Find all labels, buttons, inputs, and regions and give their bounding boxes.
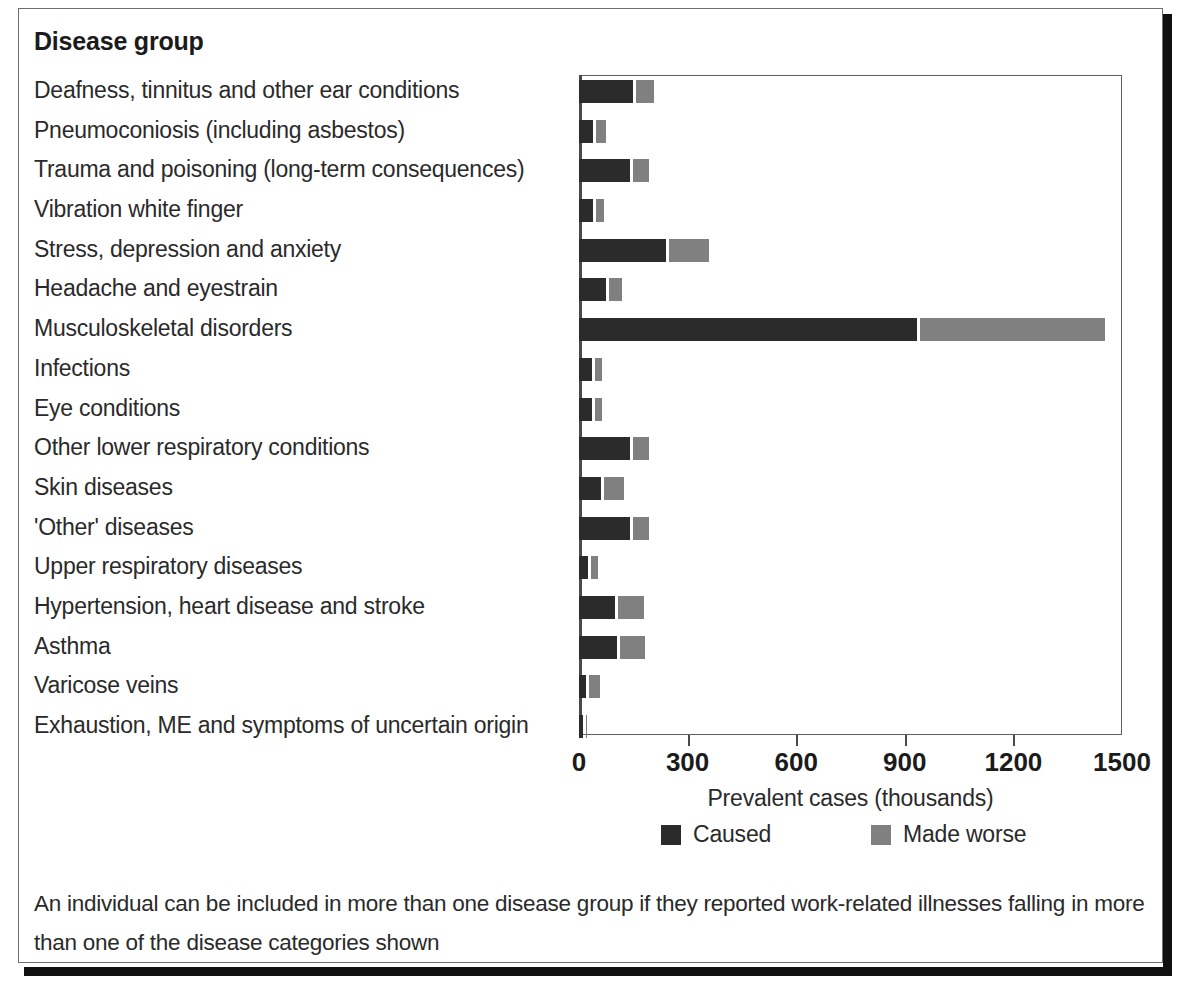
bar-stack (579, 517, 649, 540)
bar-segment-made-worse (589, 675, 600, 698)
bar-segment-made-worse (595, 398, 602, 421)
legend-label-made-worse: Made worse (903, 821, 1026, 848)
bar-segment-made-worse (636, 80, 654, 103)
bar-stack (579, 278, 622, 301)
x-axis-tick-label: 0 (572, 747, 586, 778)
x-axis-tick-labels: 030060090012001500 (579, 747, 1122, 781)
category-label: 'Other' diseases (34, 508, 579, 548)
x-axis-ticks (579, 735, 1122, 747)
bar-segment-caused (579, 80, 633, 103)
bar-row (579, 389, 1122, 429)
bar-segment-made-worse (596, 199, 603, 222)
bar-segment-made-worse (618, 596, 643, 619)
bar-row (579, 666, 1122, 706)
bar-row (579, 309, 1122, 349)
figure-container: Disease group Deafness, tinnitus and oth… (18, 8, 1163, 963)
bar-segment-made-worse (604, 477, 624, 500)
bar-stack (579, 159, 649, 182)
bar-row (579, 269, 1122, 309)
bar-stack (579, 239, 709, 262)
bar-segment-caused (579, 120, 593, 143)
legend-label-caused: Caused (693, 821, 771, 848)
x-axis-tick (796, 735, 798, 746)
bar-row (579, 349, 1122, 389)
legend-item-made-worse: Made worse (871, 821, 1026, 848)
bar-segment-caused (579, 199, 593, 222)
category-label: Musculoskeletal disorders (34, 309, 579, 349)
category-label: Hypertension, heart disease and stroke (34, 587, 579, 627)
bar-stack (579, 437, 649, 460)
x-axis-tick-label: 600 (774, 747, 817, 778)
bar-row (579, 468, 1122, 508)
category-label: Varicose veins (34, 666, 579, 706)
bar-stack (579, 80, 654, 103)
bar-stack (579, 556, 598, 579)
bars-layer (579, 71, 1122, 735)
category-label: Asthma (34, 627, 579, 667)
bar-row (579, 547, 1122, 587)
bar-stack (579, 675, 600, 698)
bar-segment-made-worse (920, 318, 1105, 341)
bar-segment-made-worse (596, 120, 605, 143)
bar-row (579, 230, 1122, 270)
bar-segment-made-worse (595, 358, 602, 381)
bar-stack (579, 596, 644, 619)
bar-stack (579, 120, 606, 143)
x-axis-tick-label: 300 (666, 747, 709, 778)
bar-segment-made-worse (609, 278, 622, 301)
category-label: Vibration white finger (34, 190, 579, 230)
bar-segment-caused (579, 596, 615, 619)
chart-legend: Caused Made worse (579, 821, 1122, 857)
bar-row (579, 111, 1122, 151)
bar-row (579, 150, 1122, 190)
category-label: Exhaustion, ME and symptoms of uncertain… (34, 706, 579, 746)
category-label: Pneumoconiosis (including asbestos) (34, 111, 579, 151)
category-label: Stress, depression and anxiety (34, 230, 579, 270)
x-axis-title: Prevalent cases (thousands) (579, 785, 1122, 812)
category-label: Upper respiratory diseases (34, 547, 579, 587)
category-axis-labels: Deafness, tinnitus and other ear conditi… (34, 71, 579, 746)
category-label: Skin diseases (34, 468, 579, 508)
bar-segment-caused (579, 159, 630, 182)
x-axis-tick (688, 735, 690, 746)
bar-segment-caused (579, 398, 592, 421)
category-label: Headache and eyestrain (34, 269, 579, 309)
bar-segment-made-worse (633, 517, 649, 540)
category-label: Deafness, tinnitus and other ear conditi… (34, 71, 579, 111)
bar-row (579, 508, 1122, 548)
x-axis-tick-label: 1500 (1093, 747, 1151, 778)
bar-stack (579, 199, 604, 222)
category-label: Infections (34, 349, 579, 389)
bar-segment-made-worse (620, 636, 645, 659)
bar-stack (579, 636, 645, 659)
x-axis-tick-label: 900 (883, 747, 926, 778)
x-axis-tick-label: 1200 (984, 747, 1042, 778)
bar-row (579, 587, 1122, 627)
category-label: Trauma and poisoning (long-term conseque… (34, 150, 579, 190)
figure-shadow-bottom (24, 967, 1172, 976)
bar-segment-caused (579, 358, 592, 381)
bar-segment-caused (579, 239, 666, 262)
figure-shadow-right (1163, 14, 1172, 976)
bar-segment-caused (579, 437, 630, 460)
bar-segment-made-worse (633, 159, 649, 182)
category-label: Other lower respiratory conditions (34, 428, 579, 468)
legend-swatch-caused-icon (661, 825, 681, 845)
bar-stack (579, 398, 602, 421)
legend-swatch-made-worse-icon (871, 825, 891, 845)
bar-stack (579, 358, 602, 381)
x-axis-tick (905, 735, 907, 746)
bar-row (579, 71, 1122, 111)
footnote-text: An individual can be included in more th… (34, 884, 1149, 962)
bar-segment-made-worse (669, 239, 709, 262)
bar-segment-made-worse (591, 556, 598, 579)
bar-segment-caused (579, 477, 601, 500)
bar-segment-caused (579, 636, 617, 659)
bar-stack (579, 477, 624, 500)
bar-row (579, 190, 1122, 230)
bar-segment-caused (579, 318, 917, 341)
legend-item-caused: Caused (661, 821, 771, 848)
bar-row (579, 627, 1122, 667)
x-axis-tick (1013, 735, 1015, 746)
bar-segment-made-worse (633, 437, 649, 460)
